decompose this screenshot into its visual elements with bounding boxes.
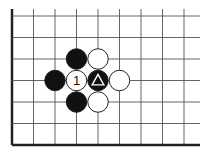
black-stone [66,92,87,113]
go-board-diagram: 1 [0,0,208,148]
white-stone [109,70,130,91]
white-stone: 1 [66,70,87,91]
black-stone [45,70,66,91]
black-stone [66,49,87,70]
black-stone [88,70,109,91]
white-stone [88,92,109,113]
go-board-svg: 1 [0,0,208,148]
white-stone [88,49,109,70]
move-number-label: 1 [73,73,80,88]
stones-layer: 1 [45,49,130,113]
